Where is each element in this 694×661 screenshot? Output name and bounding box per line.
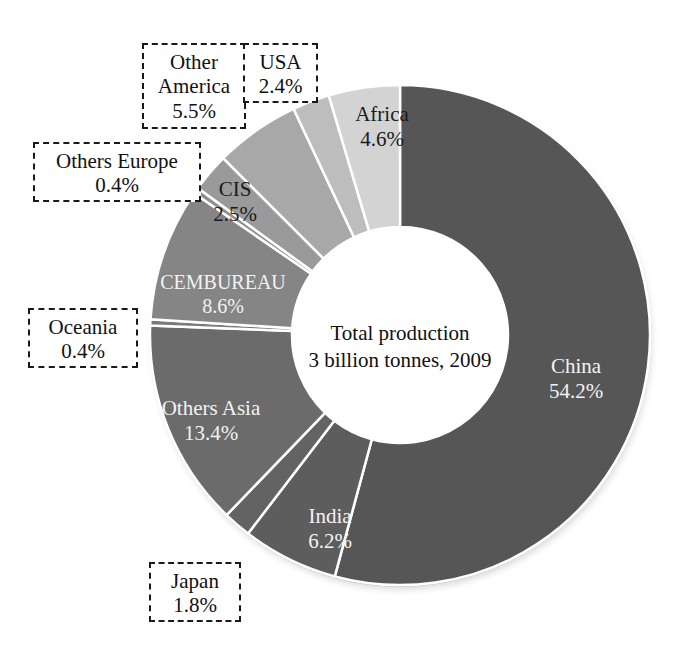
callout-others-europe-value: 0.4%	[44, 173, 190, 197]
callout-others-europe: Others Europe 0.4%	[33, 142, 201, 202]
center-line-2: 3 billion tonnes, 2009	[292, 347, 508, 374]
center-line-1: Total production	[292, 320, 508, 347]
callout-other-america-name-1: Other	[153, 50, 235, 74]
center-total-label: Total production 3 billion tonnes, 2009	[292, 320, 508, 375]
callout-others-europe-name: Others Europe	[44, 149, 190, 173]
callout-other-america: Other America 5.5%	[142, 43, 246, 129]
callout-oceania-name: Oceania	[39, 315, 127, 339]
callout-japan-value: 1.8%	[160, 593, 230, 617]
callout-usa-name: USA	[254, 50, 307, 74]
callout-oceania-value: 0.4%	[39, 339, 127, 363]
callout-other-america-name-2: America	[153, 74, 235, 98]
chart-canvas: China 54.2% Africa 4.6% CIS 2.5% CEMBURE…	[0, 0, 694, 661]
callout-japan: Japan 1.8%	[149, 562, 241, 622]
callout-usa: USA 2.4%	[243, 43, 318, 103]
callout-other-america-value: 5.5%	[153, 99, 235, 123]
callout-japan-name: Japan	[160, 569, 230, 593]
callout-oceania: Oceania 0.4%	[28, 308, 138, 368]
callout-usa-value: 2.4%	[254, 74, 307, 98]
